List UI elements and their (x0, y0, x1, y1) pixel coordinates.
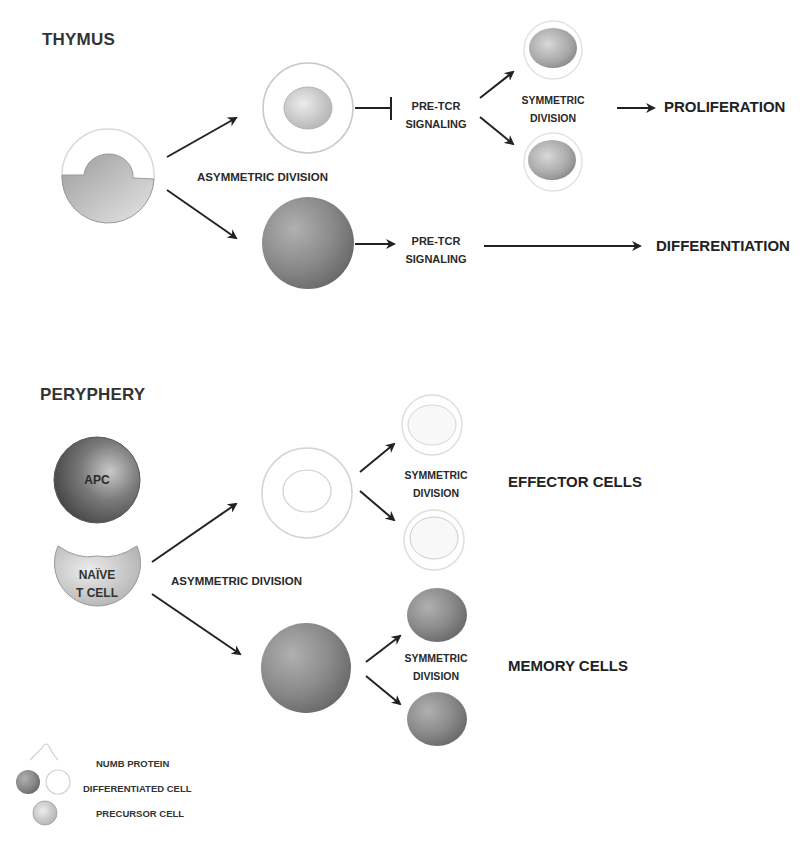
signal-line1: PRE-TCR (393, 97, 479, 115)
arrow-periphery-down (152, 594, 240, 654)
division-line1: SYMMETRIC (395, 649, 477, 667)
effector-cell-bottom (404, 510, 464, 570)
thymus-asymmetric-label: ASYMMETRIC DIVISION (197, 171, 328, 183)
thymus-upper-daughter-cell (263, 63, 353, 153)
outcome-effector-cells: EFFECTOR CELLS (508, 473, 642, 490)
thymus-progenitor-cell (62, 129, 154, 223)
legend-differentiated-cell: DIFFERENTIATED CELL (83, 783, 192, 794)
naive-line2: T CELL (62, 584, 132, 602)
periphery-title: PERYPHERY (40, 385, 145, 405)
arrow-effector-down (360, 491, 394, 520)
legend-precursor-cell: PRECURSOR CELL (96, 808, 184, 819)
arrow-effector-up (360, 444, 394, 472)
periphery-memory-division-label: SYMMETRIC DIVISION (395, 649, 477, 685)
division-line1: SYMMETRIC (395, 466, 477, 484)
arrow-sym-down (480, 117, 513, 144)
signal-line1: PRE-TCR (393, 232, 479, 250)
proliferation-cell-top (524, 21, 582, 79)
arrow-to-upper-cell (167, 118, 236, 157)
division-line2: DIVISION (395, 484, 477, 502)
division-line2: DIVISION (513, 109, 593, 127)
outcome-proliferation: PROLIFERATION (664, 98, 785, 115)
arrow-to-lower-cell (167, 190, 236, 238)
legend-numb-protein: NUMB PROTEIN (96, 758, 169, 769)
periphery-effector-division-label: SYMMETRIC DIVISION (395, 466, 477, 502)
thymus-lower-signal-label: PRE-TCR SIGNALING (393, 232, 479, 268)
periphery-lower-daughter-cell (261, 623, 351, 713)
naive-t-cell-label: NAÏVE T CELL (62, 566, 132, 602)
naive-line1: NAÏVE (62, 566, 132, 584)
thymus-upper-signal-label: PRE-TCR SIGNALING (393, 97, 479, 133)
arrow-sym-up (480, 72, 513, 98)
differentiated-cell-ring-icon (46, 770, 70, 794)
memory-cell-bottom (407, 692, 467, 746)
periphery-upper-daughter-cell (262, 448, 352, 538)
precursor-cell-icon (33, 801, 57, 825)
numb-protein-icon (30, 744, 58, 760)
thymus-lower-daughter-cell (262, 197, 354, 289)
division-line1: SYMMETRIC (513, 91, 593, 109)
signal-line2: SIGNALING (393, 115, 479, 133)
proliferation-cell-bottom (524, 133, 582, 191)
outcome-differentiation: DIFFERENTIATION (656, 237, 790, 254)
memory-cell-top (407, 588, 467, 642)
thymus-title: THYMUS (42, 30, 115, 50)
signal-line2: SIGNALING (393, 250, 479, 268)
arrow-periphery-up (152, 504, 236, 562)
differentiated-cell-dark-icon (16, 770, 40, 794)
periphery-asymmetric-label: ASYMMETRIC DIVISION (171, 575, 302, 587)
effector-cell-top (402, 395, 462, 455)
thymus-symmetric-division-label: SYMMETRIC DIVISION (513, 91, 593, 127)
division-line2: DIVISION (395, 667, 477, 685)
outcome-memory-cells: MEMORY CELLS (508, 657, 628, 674)
apc-label: APC (72, 471, 122, 489)
